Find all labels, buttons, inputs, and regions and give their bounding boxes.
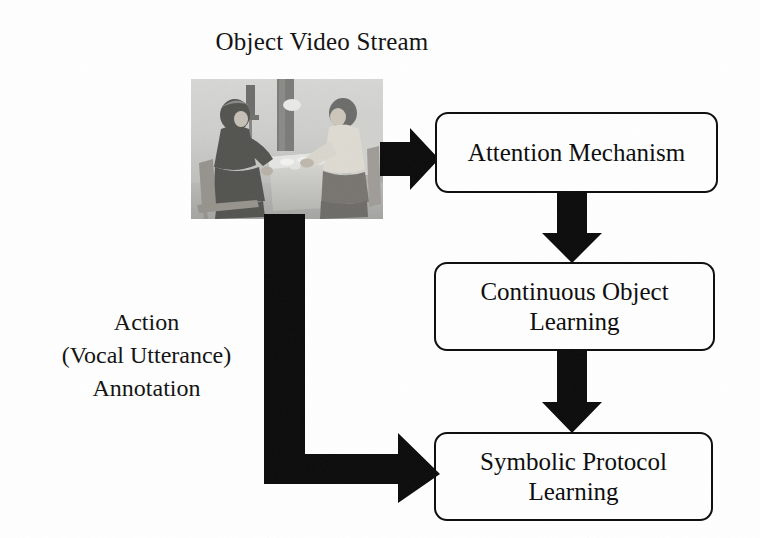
experiment-scene-photo bbox=[191, 79, 383, 219]
arrow-attention-to-continuous bbox=[541, 191, 603, 264]
node-continuous-object-learning-label-line2: Learning bbox=[480, 307, 668, 337]
node-attention-mechanism-label: Attention Mechanism bbox=[468, 138, 685, 168]
figure-title: Object Video Stream bbox=[0, 28, 702, 56]
annotation-line-action: Action bbox=[24, 306, 269, 339]
node-symbolic-protocol-learning-label-line1: Symbolic Protocol bbox=[480, 447, 667, 477]
annotation-caption: Action (Vocal Utterance) Annotation bbox=[24, 306, 269, 405]
arrow-annotation-to-symbolic bbox=[262, 214, 442, 504]
node-continuous-object-learning[interactable]: Continuous Object Learning bbox=[434, 262, 715, 351]
arrow-photo-to-attention bbox=[380, 128, 440, 190]
node-symbolic-protocol-learning-label-line2: Learning bbox=[480, 477, 667, 507]
arrow-continuous-to-symbolic bbox=[541, 350, 603, 434]
node-symbolic-protocol-learning[interactable]: Symbolic Protocol Learning bbox=[434, 432, 713, 521]
node-attention-mechanism[interactable]: Attention Mechanism bbox=[435, 112, 718, 193]
node-continuous-object-learning-label-line1: Continuous Object bbox=[480, 277, 668, 307]
annotation-line-annotation: Annotation bbox=[24, 372, 269, 405]
annotation-line-vocal-utterance: (Vocal Utterance) bbox=[24, 339, 269, 372]
figure-canvas: Object Video Stream bbox=[0, 0, 760, 538]
